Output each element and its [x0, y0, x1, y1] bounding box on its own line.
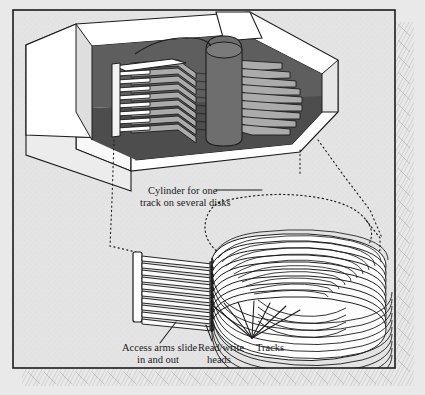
spindle-top — [206, 42, 242, 58]
label-heads-line1: Read/write — [198, 342, 244, 353]
label-cylinder-line1: Cylinder for one — [148, 185, 218, 196]
label-access-arms-line1: Access arms slide — [122, 342, 198, 353]
label-access-arms-line2: in and out — [137, 354, 179, 365]
arm-carriage — [133, 252, 142, 322]
figure-canvas: Cylinder for one track on several disks … — [0, 0, 425, 395]
access-arm-assembly — [133, 252, 214, 332]
label-tracks: Tracks — [256, 342, 284, 353]
label-cylinder-line2: track on several disks — [140, 197, 231, 208]
disk-pack-illustration: Cylinder for one track on several disks … — [0, 0, 425, 395]
label-heads-line2: heads — [207, 354, 231, 365]
